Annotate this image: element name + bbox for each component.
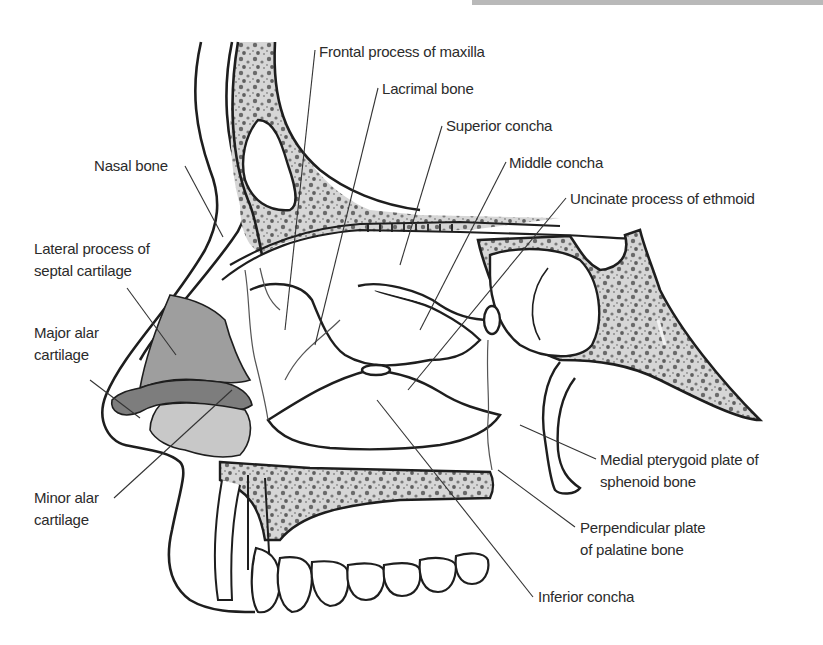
label-middle-concha: Middle concha bbox=[509, 152, 603, 174]
label-line-1: Major alar bbox=[34, 322, 99, 344]
label-line-1: Lateral process of bbox=[34, 238, 150, 260]
label-minor-alar-cartilage: Minor alar cartilage bbox=[34, 487, 99, 531]
label-medial-pterygoid-plate: Medial pterygoid plate of sphenoid bone bbox=[600, 449, 758, 493]
label-line-1: Perpendicular plate bbox=[580, 517, 705, 539]
label-major-alar-cartilage: Major alar cartilage bbox=[34, 322, 99, 366]
label-line-2: septal cartilage bbox=[34, 260, 150, 282]
label-perpendicular-plate-of-palatine-bone: Perpendicular plate of palatine bone bbox=[580, 517, 705, 561]
label-inferior-concha: Inferior concha bbox=[538, 586, 634, 608]
label-line-2: of palatine bone bbox=[580, 539, 705, 561]
label-nasal-bone: Nasal bone bbox=[94, 155, 168, 177]
label-line-1: Medial pterygoid plate of bbox=[600, 449, 758, 471]
label-lacrimal-bone: Lacrimal bone bbox=[382, 78, 474, 100]
label-superior-concha: Superior concha bbox=[446, 115, 552, 137]
teeth bbox=[252, 548, 489, 612]
label-uncinate-process: Uncinate process of ethmoid bbox=[570, 188, 755, 210]
label-frontal-process-of-maxilla: Frontal process of maxilla bbox=[319, 41, 485, 63]
label-line-2: cartilage bbox=[34, 344, 99, 366]
label-line-2: sphenoid bone bbox=[600, 471, 758, 493]
label-lateral-process-of-septal-cartilage: Lateral process of septal cartilage bbox=[34, 238, 150, 282]
label-line-1: Minor alar bbox=[34, 487, 99, 509]
label-line-2: cartilage bbox=[34, 509, 99, 531]
nasal-cartilages bbox=[112, 295, 252, 457]
